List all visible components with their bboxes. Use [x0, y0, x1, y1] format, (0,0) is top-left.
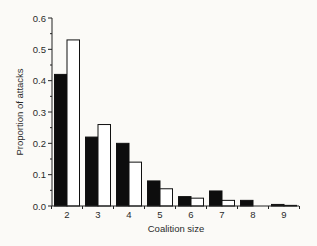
bar-black — [241, 200, 254, 206]
bar-white — [222, 200, 235, 206]
y-tick-label: 0.5 — [33, 44, 46, 55]
x-tick-label: 8 — [250, 209, 255, 220]
bar-black — [179, 197, 192, 206]
y-tick-label: 0.3 — [33, 107, 46, 118]
bar-black — [210, 191, 223, 206]
bar-black — [148, 181, 161, 206]
y-tick-label: 0.4 — [33, 75, 46, 86]
x-tick-label: 6 — [188, 209, 193, 220]
x-tick-label: 5 — [157, 209, 162, 220]
bar-white — [129, 162, 142, 206]
bar-white — [98, 125, 111, 206]
x-tick-label: 9 — [281, 209, 286, 220]
bar-black — [117, 143, 130, 206]
y-tick-label: 0.0 — [33, 201, 46, 212]
bar-white — [191, 198, 204, 206]
y-tick-label: 0.6 — [33, 13, 46, 24]
bar-black — [55, 74, 68, 206]
x-tick-label: 3 — [95, 209, 100, 220]
y-tick-label: 0.1 — [33, 169, 46, 180]
x-tick-label: 2 — [64, 209, 69, 220]
x-tick-label: 4 — [126, 209, 131, 220]
bars-group — [55, 40, 297, 206]
bar-white — [160, 189, 173, 206]
y-tick-label: 0.2 — [33, 138, 46, 149]
y-axis-label: Proportion of attacks — [14, 68, 25, 155]
bar-black — [86, 137, 99, 206]
x-tick-label: 7 — [219, 209, 224, 220]
x-axis-label: Coalition size — [148, 223, 205, 234]
bar-white — [67, 40, 80, 206]
x-ticks-group: 23456789 — [52, 206, 300, 220]
bar-chart: 0.00.10.20.30.40.50.6 23456789 Coalition… — [0, 0, 317, 246]
y-ticks-group: 0.00.10.20.30.40.50.6 — [33, 13, 52, 212]
